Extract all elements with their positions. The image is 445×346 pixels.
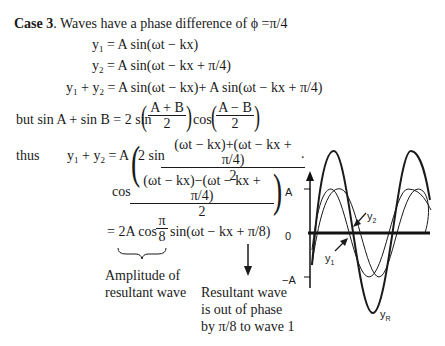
figure-graphics [0,0,445,346]
underbrace-icon [118,248,166,259]
y-axis-arrow-icon [306,171,314,181]
